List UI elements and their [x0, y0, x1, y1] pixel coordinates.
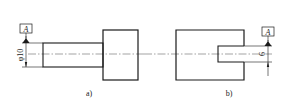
dimension-text-a: φ10 — [16, 49, 25, 62]
block-outline — [176, 30, 244, 80]
datum-label-b: A — [265, 28, 271, 37]
flange-outline — [103, 30, 138, 80]
arrowhead-icon — [25, 62, 27, 67]
datum-label-a: A — [23, 25, 29, 34]
datum-triangle-icon — [23, 38, 30, 43]
figure-a: A φ10 a) — [16, 24, 145, 98]
datum-triangle-icon — [265, 41, 272, 46]
technical-drawing: A φ10 a) A 6 b) — [0, 0, 288, 106]
arrowhead-icon — [267, 62, 269, 67]
caption-b: b) — [226, 89, 233, 98]
shaft-outline — [43, 43, 103, 67]
dimension-text-b: 6 — [258, 52, 267, 56]
figure-b: A 6 b) — [144, 27, 274, 98]
caption-a: a) — [86, 89, 93, 98]
